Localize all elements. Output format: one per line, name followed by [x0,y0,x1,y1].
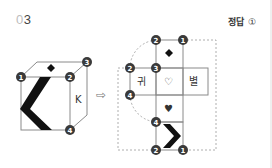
svg-text:3: 3 [154,65,159,73]
cube-front-chevron-icon [20,77,52,130]
net-vertex-middle-top-left: 2 [125,63,135,73]
net-vertex-top-left: 2 [151,35,161,45]
net-heart-filled-icon: ♥ [164,103,173,114]
cube-vertex-4: 4 [65,125,75,135]
net-vertex-bottom-top-left: 4 [151,117,161,127]
svg-text:2: 2 [154,147,159,155]
cube-vertex-2: 2 [65,72,75,82]
cube-top-face [21,62,87,77]
net-heart-outline-icon: ♡ [164,76,173,87]
net-middle-right-text: 별 [189,76,198,87]
svg-text:2: 2 [128,65,133,73]
cube-vertex-3: 3 [82,57,92,67]
net-bottom-chevron-icon [163,124,181,148]
net-vertex-top-right: 1 [178,35,188,45]
cube-right-letter: K [75,94,82,105]
arrow-right-icon: ⇨ [96,88,106,102]
figure: K 1 2 3 4 ⇨ 귀 ♡ 별 ♥ 2 [0,0,272,168]
net-vertex-middle-top-center: 3 [151,63,161,73]
cube-vertex-1: 1 [16,72,26,82]
svg-text:4: 4 [68,127,73,135]
svg-text:4: 4 [154,119,159,127]
cube-top-diamond-icon [47,64,55,72]
svg-text:1: 1 [181,37,186,45]
net-vertex-bottom-left: 2 [151,145,161,155]
net-vertex-bottom-right: 1 [178,145,188,155]
svg-text:1: 1 [181,147,186,155]
svg-text:1: 1 [19,74,24,82]
svg-text:3: 3 [85,59,90,67]
net-middle-left-text: 귀 [137,76,146,87]
svg-text:2: 2 [154,37,159,45]
svg-text:4: 4 [128,92,133,100]
net-vertex-middle-bottom-left: 4 [125,90,135,100]
svg-text:2: 2 [68,74,73,82]
net-top-diamond-icon [165,49,173,57]
